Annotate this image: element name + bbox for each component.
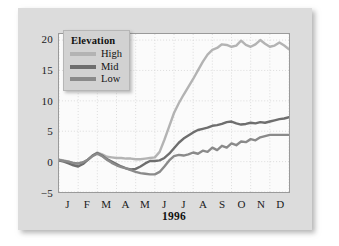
x-tick-label: J (155, 198, 173, 210)
x-tick-label: A (117, 198, 135, 210)
x-axis-title: 1996 (58, 210, 290, 222)
legend-label-mid: Mid (101, 62, 119, 73)
legend-swatch-low (70, 77, 96, 81)
legend-label-low: Low (101, 74, 120, 85)
legend-entry-high: High (70, 49, 122, 60)
x-tick-label: J (59, 198, 77, 210)
legend-label-high: High (101, 49, 122, 60)
legend-title: Elevation (71, 35, 122, 46)
y-tick-label: −5 (23, 187, 53, 199)
x-tick-label: N (252, 198, 270, 210)
y-tick-label: 20 (23, 33, 53, 45)
x-tick-label: J (175, 198, 193, 210)
legend-entries: HighMidLow (70, 49, 122, 85)
legend: Elevation HighMidLow (63, 30, 130, 91)
y-tick-label: 5 (23, 125, 53, 137)
legend-entry-mid: Mid (70, 62, 122, 73)
x-tick-label: D (271, 198, 289, 210)
y-tick-label: 0 (23, 156, 53, 168)
x-tick-label: F (78, 198, 96, 210)
x-tick-label: M (97, 198, 115, 210)
legend-swatch-mid (70, 65, 96, 69)
legend-entry-low: Low (70, 74, 122, 85)
x-tick-label: A (194, 198, 212, 210)
y-tick-label: 15 (23, 64, 53, 76)
legend-swatch-high (70, 52, 96, 56)
x-tick-label: O (233, 198, 251, 210)
figure-panel: Tree diameter (mm) 20151050−5 JFMAMJJASO… (18, 8, 312, 230)
x-tick-label: S (213, 198, 231, 210)
series-line-low (59, 135, 289, 175)
x-tick-label: M (136, 198, 154, 210)
series-line-mid (59, 117, 289, 169)
y-tick-label: 10 (23, 95, 53, 107)
